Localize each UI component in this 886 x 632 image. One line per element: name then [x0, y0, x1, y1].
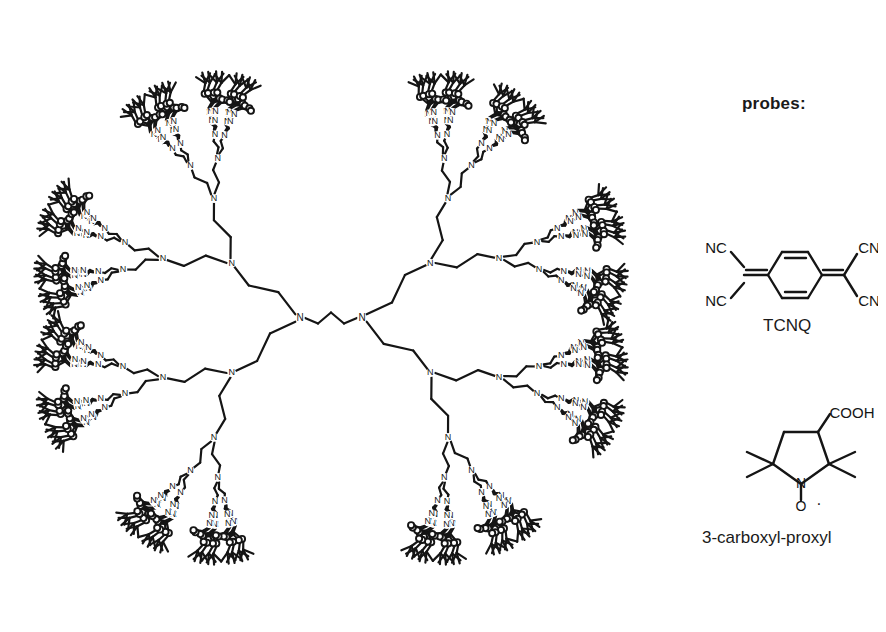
atom-label-n: N [80, 413, 87, 423]
atom-label-n: N [229, 258, 236, 268]
atom-label-n: N [171, 116, 178, 126]
atom-label-n: N [584, 360, 591, 370]
atom-label-n: N [558, 275, 565, 285]
probe-carboxyl-proxyl: N O · COOH [735, 408, 875, 520]
proxyl-label-ring-nitrogen: N [796, 475, 806, 491]
atom-label-n: N [575, 269, 582, 279]
atom-label-n: N [95, 359, 102, 369]
atom-label-n: N [554, 402, 561, 412]
atom-label-n: N [486, 143, 493, 153]
atom-label-n: N [478, 487, 485, 497]
atom-label-n: N [582, 229, 589, 239]
atom-label-n: N [160, 372, 167, 382]
atom-label-n: N [486, 481, 493, 491]
atom-label-n: N [572, 418, 579, 428]
probe-caption-carboxyl-proxyl: 3-carboxyl-proxyl [702, 528, 831, 548]
atom-label-n: N [468, 465, 475, 475]
atom-label-n: N [441, 153, 448, 163]
atom-label-n: N [75, 223, 82, 233]
atom-label-n: N [88, 409, 95, 419]
atom-label-n: N [468, 160, 475, 170]
atom-label-n: N [434, 495, 441, 505]
atom-label-core-n: N [296, 312, 303, 323]
atom-label-n: N [122, 237, 129, 247]
atom-label-n: N [211, 432, 218, 442]
atom-label-n: N [434, 130, 441, 140]
atom-label-n: N [558, 231, 565, 241]
atom-label-n: N [120, 361, 127, 371]
atom-label-n: N [169, 481, 176, 491]
tcnq-label-nc-bottom-left: NC [705, 292, 727, 309]
atom-label-n: N [443, 519, 450, 529]
tcnq-label-nc-top-left: NC [705, 239, 727, 256]
proxyl-label-nitroxide-oxygen: O [796, 498, 807, 514]
atom-label-n: N [449, 107, 456, 117]
atom-label-core-n: N [358, 312, 365, 323]
atom-label-n: N [160, 253, 167, 263]
proxyl-label-carboxyl: COOH [830, 408, 875, 421]
atom-label-n: N [225, 518, 232, 528]
atom-label-n: N [84, 207, 91, 217]
atom-label-n: N [536, 361, 543, 371]
tcnq-structure: NC NC CN CN [698, 232, 878, 324]
atom-label-n: N [72, 354, 79, 364]
proxyl-label-radical-dot: · [816, 495, 821, 512]
atom-label-n: N [84, 280, 91, 290]
atom-label-n: N [158, 490, 165, 500]
atom-label-n: N [427, 258, 434, 268]
atom-label-n: N [98, 393, 105, 403]
probe-caption-tcnq: TCNQ [763, 316, 811, 336]
atom-label-n: N [580, 402, 587, 412]
atom-label-n: N [584, 271, 591, 281]
atom-label-n: N [122, 388, 129, 398]
atom-label-n: N [496, 253, 503, 263]
atom-label-n: N [444, 129, 451, 139]
tcnq-label-cn-bottom-right: CN [858, 292, 878, 309]
atom-label-n: N [505, 129, 512, 139]
probe-tcnq: NC NC CN CN [698, 232, 878, 324]
atom-label-n: N [154, 125, 161, 135]
atom-label-n: N [212, 115, 219, 125]
atom-label-n: N [75, 282, 82, 292]
atom-label-n: N [212, 106, 219, 116]
atom-label-n: N [427, 367, 434, 377]
atom-label-n: N [572, 345, 579, 355]
atom-label-n: N [90, 213, 97, 223]
tcnq-label-cn-top-right: CN [858, 239, 878, 256]
atom-label-n: N [83, 395, 90, 405]
atom-label-n: N [425, 516, 432, 526]
atom-label-n: N [231, 109, 238, 119]
atom-label-n: N [206, 518, 213, 528]
atom-label-n: N [187, 465, 194, 475]
atom-label-n: N [165, 507, 172, 517]
atom-label-n: N [444, 496, 451, 506]
atom-label-n: N [431, 107, 438, 117]
atom-label-n: N [496, 372, 503, 382]
atom-label-n: N [478, 138, 485, 148]
atom-label-n: N [221, 495, 228, 505]
atom-label-n: N [445, 193, 452, 203]
atom-label-n: N [214, 153, 221, 163]
atom-label-n: N [83, 227, 90, 237]
atom-label-n: N [78, 337, 85, 347]
atom-label-n: N [71, 265, 78, 275]
atom-label-n: N [187, 160, 194, 170]
atom-label-n: N [575, 212, 582, 222]
atom-label-n: N [572, 398, 579, 408]
atom-label-n: N [445, 432, 452, 442]
atom-label-n: N [177, 487, 184, 497]
atom-label-n: N [491, 118, 498, 128]
atom-label-n: N [536, 264, 543, 274]
atom-label-n: N [120, 264, 127, 274]
atom-label-n: N [169, 143, 176, 153]
atom-label-n: N [98, 350, 105, 360]
atom-label-n: N [214, 472, 221, 482]
atom-label-n: N [534, 388, 541, 398]
atom-label-n: N [498, 134, 505, 144]
atom-label-n: N [534, 237, 541, 247]
atom-label-n: N [441, 472, 448, 482]
atom-label-n: N [98, 275, 105, 285]
figure-canvas: NNNNNNNNNNNNNNNNNNNNNNNNNNNNNNNNNNNNNNNN… [0, 0, 886, 632]
atom-label-n: N [567, 216, 574, 226]
atom-label-n: N [101, 223, 108, 233]
